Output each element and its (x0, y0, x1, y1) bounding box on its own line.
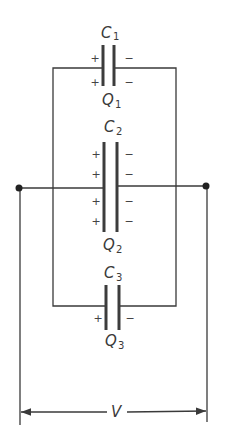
c2-label: C (104, 118, 115, 136)
c3-label: C (104, 264, 115, 282)
q3-subscript: 3 (118, 340, 124, 351)
q2-label: Q (103, 236, 115, 254)
c1-plus-sign: + (90, 52, 99, 65)
c1-plus-sign: + (90, 76, 99, 89)
c2-plus-sign: + (91, 215, 100, 228)
c2-plus-sign: + (91, 168, 100, 181)
c1-label: C (101, 24, 112, 42)
c1-minus-sign: − (124, 76, 133, 89)
q3-label: Q (105, 332, 117, 350)
c1-minus-sign: − (124, 52, 133, 65)
c1-subscript: 1 (113, 31, 119, 42)
c2-minus-sign: − (124, 168, 133, 181)
c3-minus-sign: − (125, 312, 134, 325)
c3-plus-sign: + (93, 312, 102, 325)
c3-subscript: 3 (116, 272, 122, 283)
c2-minus-sign: − (124, 215, 133, 228)
capacitor-c3: C 3 + − Q 3 (93, 264, 134, 351)
capacitor-c1: C 1 + + − − Q 1 (90, 24, 133, 110)
c2-plus-sign: + (91, 195, 100, 208)
voltage-dimension: V (21, 403, 206, 421)
right-terminal-dot (203, 183, 210, 190)
q1-subscript: 1 (115, 99, 121, 110)
parallel-capacitor-circuit: C 1 + + − − Q 1 C 2 + + + + − − − − Q 2 … (0, 0, 228, 437)
c2-subscript: 2 (116, 126, 122, 137)
q2-subscript: 2 (116, 244, 122, 255)
left-terminal-dot (16, 185, 23, 192)
q1-label: Q (102, 91, 114, 109)
terminal-wires (19, 186, 207, 425)
c2-minus-sign: − (124, 148, 133, 161)
c2-minus-sign: − (124, 195, 133, 208)
c2-plus-sign: + (91, 148, 100, 161)
voltage-label: V (111, 403, 123, 421)
